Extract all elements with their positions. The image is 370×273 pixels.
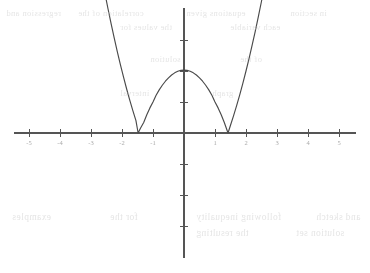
function-curve [96, 0, 271, 133]
x-axis-tick-label: 2 [244, 139, 247, 146]
function-curve-group [96, 0, 271, 133]
x-axis-tick-label: -4 [57, 139, 63, 146]
x-axis-tick-label: -2 [119, 139, 124, 146]
x-axis-tick-label: 5 [337, 139, 340, 146]
x-axis-tick-label: 1 [213, 139, 216, 146]
x-axis-tick-label: 3 [275, 139, 278, 146]
x-axis-tick-label: -1 [150, 139, 155, 146]
axes-group [14, 8, 356, 258]
x-axis-tick-label: 4 [306, 139, 310, 146]
x-axis-tick-label: -3 [88, 139, 93, 146]
graph-figure: regression andcorrelation of theequation… [0, 0, 370, 273]
x-axis-tick-label: -5 [26, 139, 31, 146]
coordinate-plot: -5-4-3-2-112345 [0, 0, 370, 273]
